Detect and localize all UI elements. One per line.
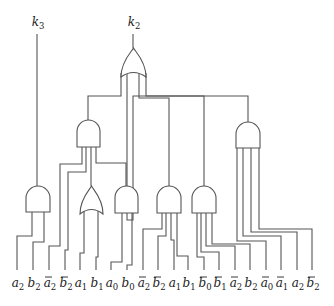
and-gate-and-mid-left <box>77 120 100 147</box>
gates <box>26 48 260 214</box>
input-label-a1: a1 <box>169 276 182 292</box>
input-label-a1: a1 <box>75 276 88 292</box>
input-labels: a2b2a2b2a1b1a0b0a2b2a1b1b0b1a2b2a0a1a2b2 <box>12 276 320 292</box>
wire <box>80 211 84 270</box>
wire <box>243 148 281 270</box>
wire <box>206 213 235 270</box>
wires <box>17 34 312 270</box>
and-gate-and-low-3 <box>192 186 216 213</box>
and-gate-and-mid-right <box>236 122 260 148</box>
wire <box>127 213 132 270</box>
wire <box>251 148 297 270</box>
and-gate-and-low-2 <box>157 186 181 213</box>
input-label-b2: b2 <box>27 276 40 292</box>
wire <box>111 213 122 270</box>
output-labels: k3k2 <box>32 15 141 31</box>
wire <box>143 213 162 270</box>
input-label-b0: b0 <box>121 276 134 292</box>
and-gate-and-low-1 <box>115 186 138 213</box>
wire <box>177 213 188 270</box>
wire <box>17 212 32 270</box>
wire <box>88 73 121 120</box>
input-label-b1: b1 <box>90 276 103 292</box>
input-label-a2: a2 <box>292 276 305 292</box>
output-label-k3: k3 <box>32 15 45 31</box>
input-label-a0: a0 <box>106 276 119 292</box>
logic-circuit-diagram: k3k2 a2b2a2b2a1b1a0b0a2b2a1b1b0b1a2b2a0a… <box>0 0 334 306</box>
output-label-k2: k2 <box>128 15 141 31</box>
wire <box>259 148 312 270</box>
wire <box>96 211 98 270</box>
input-label-not-a2: a2 <box>230 276 243 292</box>
and-gate-and-k3 <box>26 186 50 212</box>
input-label-b2: b2 <box>244 276 257 292</box>
input-label-not-b2: b2 <box>59 276 72 292</box>
input-label-not-a2: a2 <box>138 276 151 292</box>
or-gate-or-top <box>121 48 146 77</box>
input-label-not-b2: b2 <box>152 276 165 292</box>
wire <box>33 212 44 270</box>
input-label-not-b0: b0 <box>198 276 211 292</box>
input-label-not-a1: a1 <box>276 276 289 292</box>
input-label-b1: b1 <box>182 276 195 292</box>
wire <box>171 213 174 270</box>
input-label-a2: a2 <box>12 276 25 292</box>
input-label-not-a2: a2 <box>44 276 57 292</box>
wire <box>139 71 169 186</box>
or-gate-or-low <box>80 186 103 214</box>
input-label-not-b2: b2 <box>306 276 319 292</box>
wire <box>96 147 126 186</box>
input-label-not-a0: a0 <box>261 276 274 292</box>
input-label-not-b1: b1 <box>213 276 226 292</box>
